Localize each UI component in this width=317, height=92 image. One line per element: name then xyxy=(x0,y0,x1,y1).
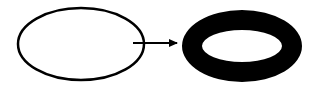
diagram-svg xyxy=(0,0,317,92)
thick-ring-shape xyxy=(182,10,302,82)
thin-ellipse-shape xyxy=(18,8,144,80)
diagram-canvas: thin ellipse transforms into thick ring xyxy=(0,0,317,92)
